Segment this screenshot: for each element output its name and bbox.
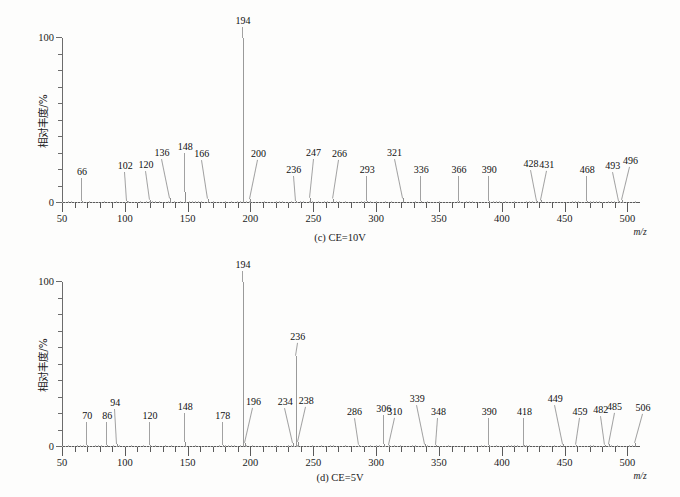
y-axis-tick <box>58 397 62 398</box>
peak-label: 148 <box>178 402 193 412</box>
baseline-noise <box>454 446 455 447</box>
baseline-noise <box>240 445 241 447</box>
y-axis-tick <box>58 413 62 414</box>
x-axis-tick <box>376 203 377 212</box>
baseline-noise <box>101 445 102 447</box>
baseline-noise <box>65 446 66 447</box>
baseline-noise <box>499 201 500 203</box>
baseline-noise <box>264 446 265 447</box>
baseline-noise <box>152 446 153 447</box>
spectrum-peak <box>609 444 610 447</box>
peak-label: 310 <box>387 407 402 417</box>
baseline-noise <box>554 445 555 447</box>
baseline-noise <box>315 446 316 447</box>
peak-label-leader <box>242 271 243 282</box>
baseline-noise <box>225 201 226 203</box>
baseline-noise <box>74 202 75 203</box>
baseline-noise <box>590 445 591 447</box>
peak-label: 66 <box>77 167 87 177</box>
panel-caption-c: (c) CE=10V <box>0 232 680 243</box>
peak-label-leader <box>600 416 605 445</box>
x-axis-tick <box>565 447 566 456</box>
x-axis-tick <box>514 447 515 452</box>
x-axis-tick <box>590 203 591 208</box>
x-axis-tick <box>213 447 214 452</box>
x-axis-tick <box>615 203 616 208</box>
baseline-noise <box>529 445 530 447</box>
peak-label-leader <box>366 176 367 201</box>
baseline-noise <box>312 445 313 447</box>
baseline-noise <box>342 202 343 203</box>
peak-label-leader <box>161 159 170 198</box>
peak-label-leader <box>114 409 117 444</box>
peak-label: 234 <box>278 397 293 407</box>
baseline-noise <box>596 446 597 447</box>
x-axis-tick-label: 150 <box>180 458 196 469</box>
baseline-noise <box>276 445 277 447</box>
baseline-noise <box>463 202 464 203</box>
y-axis-title-c: 相对丰度/% <box>35 94 50 148</box>
x-axis-tick-label: 500 <box>620 214 636 225</box>
spectrum-peak <box>367 201 368 203</box>
x-axis-tick-label: 300 <box>368 458 384 469</box>
peak-label-leader <box>297 407 306 442</box>
peak-label-leader <box>106 422 107 445</box>
x-axis-tick <box>627 203 628 212</box>
x-axis-tick <box>75 447 76 452</box>
spectrum-peak <box>541 200 542 203</box>
baseline-noise <box>575 201 576 203</box>
baseline-noise <box>364 201 365 203</box>
baseline-noise <box>481 202 482 203</box>
x-axis-tick <box>351 203 352 208</box>
baseline-noise <box>297 202 298 203</box>
baseline-noise <box>134 446 135 447</box>
baseline-noise <box>336 201 337 203</box>
x-axis-tick-label: 450 <box>557 214 573 225</box>
y-axis-tick-label: 100 <box>38 33 54 44</box>
spectrum-peak <box>250 199 251 203</box>
peak-label: 506 <box>635 403 650 413</box>
spectrum-peak <box>245 443 246 447</box>
x-axis-tick <box>527 203 528 208</box>
x-axis-tick <box>389 203 390 208</box>
baseline-noise <box>502 202 503 203</box>
baseline-noise <box>445 202 446 203</box>
peak-label-leader <box>612 172 619 201</box>
baseline-noise <box>611 201 612 203</box>
baseline-noise <box>219 202 220 203</box>
y-axis-tick <box>58 186 62 187</box>
baseline-noise <box>201 446 202 447</box>
baseline-noise <box>596 201 597 203</box>
baseline-noise <box>303 446 304 447</box>
baseline-noise <box>68 201 69 203</box>
x-axis-tick <box>464 447 465 452</box>
baseline-noise <box>608 201 609 203</box>
baseline-noise <box>415 201 416 203</box>
baseline-noise <box>373 446 374 447</box>
baseline-noise <box>312 201 313 203</box>
baseline-noise <box>412 202 413 203</box>
baseline-noise <box>174 201 175 203</box>
baseline-noise <box>231 445 232 447</box>
baseline-noise <box>602 202 603 203</box>
x-axis-tick <box>590 447 591 452</box>
baseline-noise <box>162 446 163 447</box>
baseline-noise <box>177 446 178 447</box>
x-axis-tick <box>364 203 365 208</box>
baseline-noise <box>327 201 328 203</box>
baseline-noise <box>339 446 340 447</box>
baseline-noise <box>418 202 419 203</box>
x-axis-tick <box>326 447 327 452</box>
baseline-noise <box>279 446 280 447</box>
baseline-noise <box>520 202 521 203</box>
baseline-noise <box>143 445 144 447</box>
x-axis-tick <box>627 447 628 456</box>
baseline-noise <box>523 202 524 203</box>
baseline-noise <box>201 201 202 203</box>
x-axis-tick-label: 100 <box>117 214 133 225</box>
baseline-noise <box>315 202 316 203</box>
x-axis-tick-label: 50 <box>57 458 68 469</box>
baseline-noise <box>581 446 582 447</box>
peak-label-leader <box>488 418 489 445</box>
x-axis-tick <box>539 447 540 452</box>
